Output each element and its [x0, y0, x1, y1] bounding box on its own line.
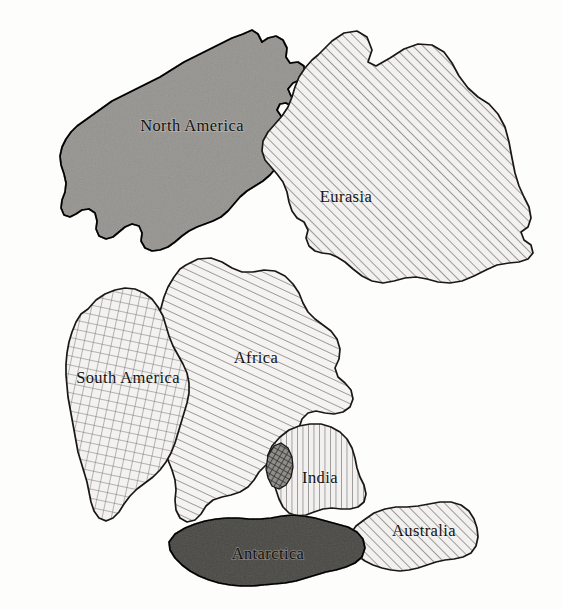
pangaea-map-figure: North America Eurasia Africa South Ameri… [0, 0, 562, 609]
label-antarctica: Antarctica [232, 544, 305, 563]
pangaea-diagram: North America Eurasia Africa South Ameri… [0, 0, 562, 609]
continent-australia[interactable]: Australia [350, 502, 478, 571]
label-india: India [302, 468, 338, 487]
label-australia: Australia [392, 521, 456, 540]
label-africa: Africa [234, 348, 279, 367]
label-south-america: South America [76, 368, 180, 387]
continent-antarctica[interactable]: Antarctica [169, 515, 365, 586]
label-eurasia: Eurasia [320, 187, 373, 206]
label-north-america: North America [140, 116, 244, 135]
